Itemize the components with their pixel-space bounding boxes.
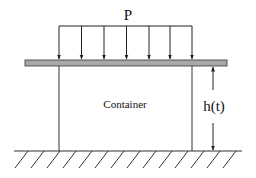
distributed-load-arrows [59, 26, 192, 59]
compression-plate [25, 60, 227, 66]
ground-hatching [15, 151, 236, 168]
load-label: P [124, 7, 132, 23]
container-compression-diagram: P Container h(t) [0, 0, 256, 178]
height-label: h(t) [203, 98, 225, 115]
container-label: Container [103, 98, 147, 110]
ground [14, 151, 242, 168]
